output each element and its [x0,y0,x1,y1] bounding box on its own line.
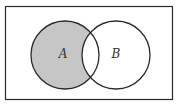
set-a-label: A [58,47,68,61]
venn-diagram: A B [0,0,177,110]
set-b-label: B [111,47,121,61]
